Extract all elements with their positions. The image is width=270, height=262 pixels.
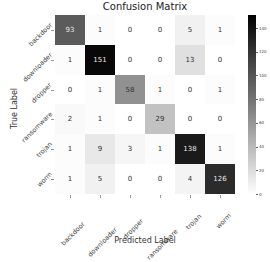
matrix-cell: 1 [205, 15, 235, 45]
matrix-cell: 1 [55, 45, 85, 75]
colorbar-tick-mark [256, 52, 258, 53]
matrix-cell: 0 [145, 15, 175, 45]
matrix-cell: 13 [175, 45, 205, 75]
matrix-cell: 1 [145, 75, 175, 105]
matrix-cell: 3 [115, 134, 145, 164]
matrix-cell: 29 [145, 104, 175, 134]
colorbar-tick-label: 140 [259, 26, 267, 31]
colorbar-tick-mark [256, 75, 258, 76]
matrix-cell: 93 [55, 15, 85, 45]
matrix-cell: 1 [55, 164, 85, 194]
matrix-cell: 0 [115, 104, 145, 134]
x-tick-mark [130, 195, 131, 198]
x-tick-mark [100, 195, 101, 198]
matrix-cell: 1 [85, 15, 115, 45]
confusion-matrix-grid: 9310051115100130015810121029001931138115… [55, 15, 235, 194]
matrix-cell: 1 [85, 75, 115, 105]
chart-title: Confusion Matrix [55, 1, 235, 12]
y-tick-mark [51, 119, 54, 120]
matrix-cell: 1 [205, 134, 235, 164]
matrix-cell: 9 [85, 134, 115, 164]
x-tick-mark [160, 195, 161, 198]
colorbar [248, 15, 256, 194]
colorbar-tick-label: 20 [259, 168, 264, 173]
matrix-cell: 0 [145, 164, 175, 194]
y-tick-label: ransomware [20, 111, 54, 145]
matrix-cell: 0 [115, 15, 145, 45]
y-tick-label: downloader [21, 51, 54, 84]
colorbar-tick-mark [256, 28, 258, 29]
matrix-cell: 1 [85, 104, 115, 134]
colorbar-tick-mark [256, 170, 258, 171]
matrix-cell: 138 [175, 134, 205, 164]
matrix-cell: 151 [85, 45, 115, 75]
matrix-cell: 0 [55, 75, 85, 105]
y-tick-mark [51, 60, 54, 61]
matrix-cell: 0 [175, 75, 205, 105]
colorbar-tick-label: 100 [259, 73, 267, 78]
y-tick-mark [51, 179, 54, 180]
matrix-cell: 0 [145, 45, 175, 75]
matrix-cell: 5 [175, 15, 205, 45]
colorbar-tick-label: 120 [259, 49, 267, 54]
colorbar-tick-mark [256, 123, 258, 124]
matrix-cell: 0 [115, 45, 145, 75]
x-tick-label: trojan [184, 212, 203, 231]
x-tick-mark [70, 195, 71, 198]
matrix-cell: 1 [145, 134, 175, 164]
matrix-cell: 0 [205, 104, 235, 134]
x-tick-mark [190, 195, 191, 198]
matrix-cell: 1 [55, 134, 85, 164]
matrix-cell: 58 [115, 75, 145, 105]
matrix-cell: 4 [175, 164, 205, 194]
matrix-cell: 0 [115, 164, 145, 194]
colorbar-tick-label: 40 [259, 144, 264, 149]
y-tick-label: dropper [30, 81, 54, 105]
matrix-cell: 0 [205, 45, 235, 75]
matrix-cell: 5 [85, 164, 115, 194]
y-tick-mark [51, 149, 54, 150]
colorbar-tick-label: 0 [259, 192, 262, 197]
colorbar-tick-mark [256, 147, 258, 148]
matrix-cell: 1 [205, 75, 235, 105]
x-tick-mark [220, 195, 221, 198]
y-axis-label: True Label [10, 79, 19, 139]
colorbar-tick-label: 60 [259, 120, 264, 125]
x-tick-label: worm [214, 212, 233, 231]
y-tick-mark [51, 90, 54, 91]
matrix-cell: 0 [175, 104, 205, 134]
x-axis-label: Predicted Label [95, 236, 195, 245]
x-tick-label: backdoor [59, 220, 86, 247]
colorbar-tick-mark [256, 99, 258, 100]
matrix-cell: 2 [55, 104, 85, 134]
colorbar-tick-label: 80 [259, 97, 264, 102]
matrix-cell: 126 [205, 164, 235, 194]
colorbar-tick-mark [256, 194, 258, 195]
y-tick-mark [51, 30, 54, 31]
y-tick-label: backdoor [27, 21, 54, 48]
